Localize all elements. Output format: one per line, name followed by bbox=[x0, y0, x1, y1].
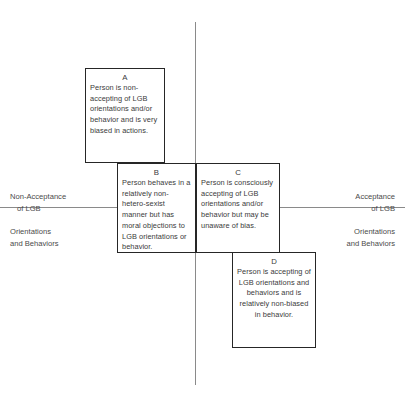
quadrant-c-letter: C bbox=[201, 167, 275, 178]
quadrant-b-text: Person behaves in a relatively non-heter… bbox=[122, 178, 191, 253]
axis-label-left-bottom-line1: Orientations bbox=[10, 227, 51, 236]
quadrant-box-c: C Person is consciously accepting of LGB… bbox=[196, 163, 280, 253]
quadrant-box-a: A Person is non-accepting of LGB orienta… bbox=[85, 68, 165, 163]
axis-label-left-bottom: Orientations and Behaviors bbox=[10, 213, 105, 263]
axis-label-right-bottom-line1: Orientations bbox=[354, 227, 395, 236]
axis-label-right-bottom-line2: and Behaviors bbox=[300, 238, 395, 251]
axis-label-left-bottom-line2: and Behaviors bbox=[10, 238, 105, 251]
quadrant-b-letter: B bbox=[122, 167, 191, 178]
diagram-canvas: A Person is non-accepting of LGB orienta… bbox=[0, 0, 405, 394]
quadrant-a-letter: A bbox=[90, 72, 160, 83]
quadrant-d-text: Person is accepting of LGB orientations … bbox=[237, 267, 311, 321]
quadrant-a-text: Person is non-accepting of LGB orientati… bbox=[90, 83, 160, 137]
axis-label-left-top-line1: Non-Acceptance bbox=[10, 192, 66, 201]
axis-label-right-top-line1: Acceptance bbox=[355, 192, 395, 201]
quadrant-box-b: B Person behaves in a relatively non-het… bbox=[117, 163, 196, 253]
quadrant-c-text: Person is consciously accepting of LGB o… bbox=[201, 178, 275, 232]
quadrant-box-d: D Person is accepting of LGB orientation… bbox=[232, 252, 316, 348]
quadrant-d-letter: D bbox=[237, 256, 311, 267]
